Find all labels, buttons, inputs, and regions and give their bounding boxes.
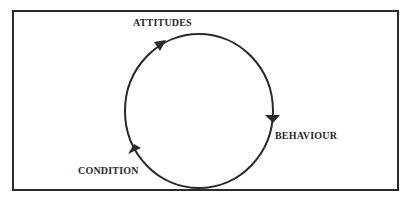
cycle-circle xyxy=(125,34,273,188)
arrow-to-condition-icon xyxy=(128,144,141,154)
node-condition-label: CONDITION xyxy=(78,165,139,176)
node-attitudes-label: ATTITUDES xyxy=(133,17,192,28)
node-behaviour-label: BEHAVIOUR xyxy=(275,130,337,141)
arrow-to-behaviour-icon xyxy=(265,115,280,123)
cycle-diagram xyxy=(0,0,412,201)
